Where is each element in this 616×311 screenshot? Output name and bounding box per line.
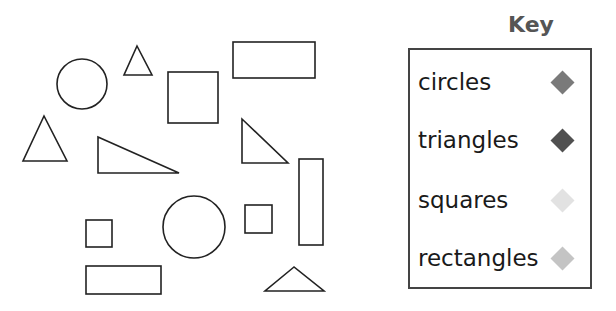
triangle-shape bbox=[265, 267, 324, 291]
square-shape bbox=[168, 72, 218, 123]
diamond-icon bbox=[550, 188, 574, 212]
key-item-circles: circles bbox=[418, 62, 582, 102]
rectangle-shape bbox=[86, 266, 161, 294]
key-item-rectangles: rectangles bbox=[418, 238, 582, 278]
diamond-icon bbox=[550, 246, 574, 270]
key-item-squares: squares bbox=[418, 180, 582, 220]
key-label-triangles: triangles bbox=[418, 127, 519, 153]
circle-shape bbox=[57, 59, 107, 109]
triangle-shape bbox=[23, 116, 67, 161]
key-label-circles: circles bbox=[418, 69, 491, 95]
key-label-rectangles: rectangles bbox=[418, 245, 539, 271]
triangle-shape bbox=[242, 119, 288, 163]
rectangle-shape bbox=[299, 159, 323, 245]
key-legend: circles triangles squares rectangles bbox=[408, 48, 592, 289]
key-label-squares: squares bbox=[418, 187, 508, 213]
triangle-shape bbox=[98, 137, 179, 173]
diamond-icon bbox=[550, 70, 574, 94]
key-title: Key bbox=[508, 12, 588, 37]
rectangle-shape bbox=[233, 42, 315, 78]
square-shape bbox=[245, 205, 272, 233]
diamond-icon bbox=[550, 128, 574, 152]
triangle-shape bbox=[124, 46, 152, 75]
shapes-canvas bbox=[0, 0, 400, 311]
key-item-triangles: triangles bbox=[418, 120, 582, 160]
circle-shape bbox=[163, 196, 225, 258]
square-shape bbox=[86, 220, 112, 247]
